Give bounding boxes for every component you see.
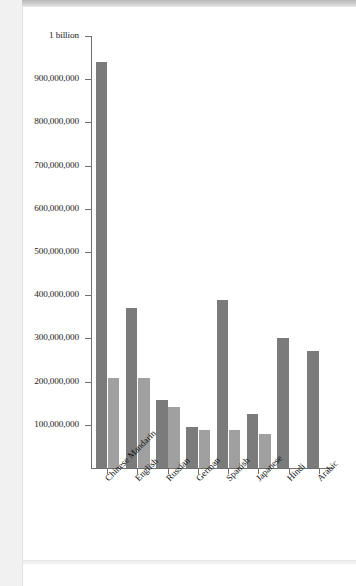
y-axis-tick-label: 200,000,000 xyxy=(34,376,79,386)
y-axis-tick xyxy=(85,252,91,253)
bar-chart: 1 billion900,000,000800,000,000700,000,0… xyxy=(0,0,356,586)
y-axis-tick xyxy=(85,36,91,37)
bar-primary xyxy=(96,62,108,468)
y-axis-tick-label: 700,000,000 xyxy=(34,160,79,170)
y-axis-tick xyxy=(85,166,91,167)
bar-secondary xyxy=(168,407,180,468)
y-axis-tick-label: 900,000,000 xyxy=(34,73,79,83)
y-axis-tick xyxy=(85,122,91,123)
bar-primary xyxy=(277,338,289,468)
y-axis-tick xyxy=(85,425,91,426)
y-axis-tick-label: 1 billion xyxy=(49,30,79,40)
y-axis-tick xyxy=(85,79,91,80)
y-axis-line xyxy=(91,36,92,469)
y-axis-tick xyxy=(85,295,91,296)
y-axis-tick-label: 600,000,000 xyxy=(34,203,79,213)
y-axis-tick xyxy=(85,209,91,210)
bar-secondary xyxy=(138,378,150,468)
y-axis-tick-label: 500,000,000 xyxy=(34,246,79,256)
bar-primary xyxy=(307,351,319,469)
y-axis-tick xyxy=(85,338,91,339)
y-axis-tick-label: 100,000,000 xyxy=(34,419,79,429)
y-axis-tick-label: 300,000,000 xyxy=(34,332,79,342)
bar-primary xyxy=(217,300,229,468)
page-background: 1 billion900,000,000800,000,000700,000,0… xyxy=(0,0,356,586)
y-axis-tick-label: 400,000,000 xyxy=(34,289,79,299)
bar-secondary xyxy=(108,378,120,468)
y-axis-tick xyxy=(85,382,91,383)
y-axis-tick-label: 800,000,000 xyxy=(34,116,79,126)
